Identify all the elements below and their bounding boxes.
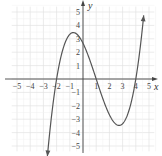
tick-labels: −5−4−3−2−11234554321−1−2−3−4−5 xyxy=(13,8,151,151)
x-tick-label: 3 xyxy=(121,82,125,91)
y-tick-label: −4 xyxy=(71,129,80,138)
x-tick-label: −3 xyxy=(39,82,48,91)
x-tick-label: −5 xyxy=(13,82,22,91)
x-axis-label: x xyxy=(153,81,159,92)
x-tick-label: −4 xyxy=(26,82,35,91)
graph-figure: −5−4−3−2−11234554321−1−2−3−4−5 x y xyxy=(0,0,162,156)
axes xyxy=(5,0,158,153)
y-tick-label: −2 xyxy=(71,102,80,111)
x-tick-label: 5 xyxy=(147,82,151,91)
y-tick-label: −3 xyxy=(71,115,80,124)
y-tick-label: 1 xyxy=(76,62,80,71)
y-tick-label: 4 xyxy=(76,21,80,30)
y-tick-label: 5 xyxy=(76,8,80,17)
y-tick-label: 2 xyxy=(76,48,80,57)
x-tick-label: 2 xyxy=(107,82,111,91)
grid xyxy=(12,5,156,151)
cubic-function-graph: −5−4−3−2−11234554321−1−2−3−4−5 x y xyxy=(0,0,162,156)
y-axis-label: y xyxy=(87,0,93,11)
y-tick-label: −5 xyxy=(71,142,80,151)
y-tick-label: −1 xyxy=(71,88,80,97)
x-tick-label: −2 xyxy=(52,82,61,91)
